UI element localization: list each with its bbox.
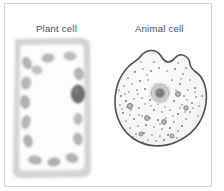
plant-cell-illustration — [8, 36, 98, 186]
animal-cell-illustration — [110, 44, 212, 154]
plant-cell-label: Plant cell — [36, 23, 77, 34]
animal-cell-nucleus — [149, 82, 171, 104]
cell-diagram-figure: Plant cell Animal cell — [0, 0, 224, 191]
animal-cell-label: Animal cell — [135, 23, 184, 34]
plant-cell-nucleus — [72, 85, 85, 103]
